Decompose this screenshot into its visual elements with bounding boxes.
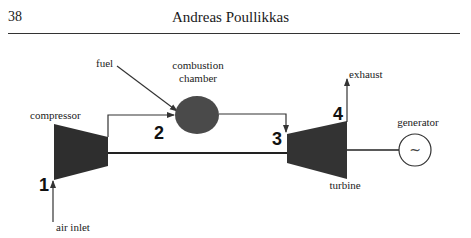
turbine-label: turbine	[329, 179, 360, 191]
compressor-label: compressor	[30, 109, 81, 121]
compressor-to-combustor-line	[108, 115, 174, 137]
state-point-3: 3	[272, 129, 282, 149]
turbine-shape	[287, 121, 347, 179]
compressor-shape	[54, 124, 108, 180]
gas-turbine-diagram: fuel combustion chamber compressor exhau…	[0, 0, 471, 238]
generator-label: generator	[397, 116, 439, 128]
fuel-label: fuel	[96, 57, 113, 69]
ac-tilde-icon: ~	[409, 142, 421, 158]
state-point-1: 1	[39, 175, 49, 195]
combustion-chamber-label-line1: combustion	[172, 59, 224, 71]
state-point-2: 2	[154, 123, 164, 143]
exhaust-label: exhaust	[349, 68, 383, 80]
fuel-arrow	[117, 66, 177, 111]
air-inlet-label: air inlet	[56, 221, 90, 233]
combustion-chamber-label-line2: chamber	[179, 72, 217, 84]
state-point-4: 4	[333, 104, 343, 124]
combustion-chamber-shape	[175, 96, 219, 134]
